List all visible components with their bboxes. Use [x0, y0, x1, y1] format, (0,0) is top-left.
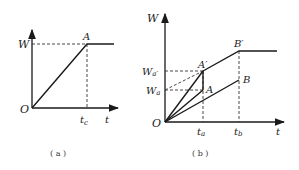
- panel-b-tb-label: tb: [234, 126, 243, 138]
- panel-b-line-o-b: [165, 80, 239, 122]
- panel-b-ta-label: ta: [197, 126, 205, 138]
- panel-b-wa-to-a-prime-dashed: [165, 71, 203, 90]
- panel-a-origin-label: O: [20, 103, 29, 116]
- panel-b-a-prime-label: A′: [197, 59, 208, 70]
- panel-b-line-a-prime-b-prime: [203, 51, 277, 71]
- panel-a: W O A tc t ( a ): [18, 30, 118, 158]
- panel-b-y-label: W: [147, 12, 160, 25]
- panel-b-origin-label: O: [152, 117, 161, 130]
- panel-a-work-curve: [32, 44, 114, 108]
- diagram-canvas: W O A tc t ( a ) W O: [0, 0, 299, 170]
- panel-a-y-label: W: [18, 38, 31, 51]
- panel-b-line-o-a-prime: [165, 71, 203, 122]
- panel-b: W O Wa′ Wa A′ A B′ B ta tb t ( b ): [142, 12, 284, 158]
- panel-b-line-o-a: [165, 90, 203, 122]
- panel-b-caption: ( b ): [192, 149, 208, 158]
- panel-a-caption: ( a ): [50, 149, 66, 158]
- panel-a-point-a-label: A: [82, 31, 90, 42]
- panel-a-x-label: t: [105, 114, 110, 125]
- panel-a-tc-label: tc: [80, 114, 88, 127]
- panel-b-a-label: A: [205, 84, 213, 95]
- work-time-diagram: W O A tc t ( a ) W O: [0, 0, 299, 170]
- panel-b-wa-label: Wa: [146, 85, 160, 97]
- panel-b-b-prime-label: B′: [233, 38, 244, 49]
- panel-b-wa-prime-label: Wa′: [142, 66, 158, 78]
- panel-b-x-label: t: [276, 126, 281, 137]
- panel-b-b-label: B: [242, 74, 250, 85]
